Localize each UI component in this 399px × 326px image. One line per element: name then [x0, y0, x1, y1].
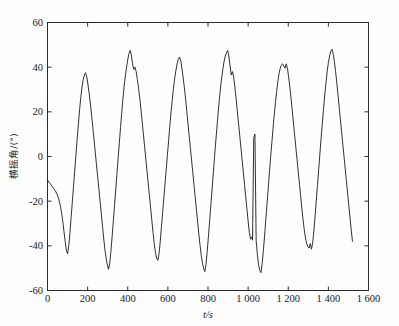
- x-tick-label: 600: [160, 293, 176, 304]
- x-tick-label: 1 400: [317, 293, 341, 304]
- x-tick-labels: 02004006008001 0001 2001 4001 600: [45, 293, 380, 304]
- y-tick-label: 20: [33, 106, 44, 117]
- x-tick-label: 1 600: [357, 293, 381, 304]
- data-series-group: [48, 49, 353, 272]
- x-tick-label: 400: [120, 293, 136, 304]
- y-tick-labels: -60-40-200204060: [29, 17, 43, 296]
- x-tick-label: 1 200: [276, 293, 300, 304]
- data-curve: [48, 49, 353, 272]
- x-tick-label: 1 000: [236, 293, 260, 304]
- figure-canvas: 02004006008001 0001 2001 4001 600 -60-40…: [0, 0, 399, 326]
- y-tick-label: -40: [29, 240, 43, 251]
- y-tick-label: 0: [38, 151, 43, 162]
- x-axis-title: t/s: [203, 309, 213, 320]
- x-tick-label: 0: [45, 293, 50, 304]
- y-tick-label: -20: [29, 196, 43, 207]
- y-tick-label: -60: [29, 285, 43, 296]
- y-axis-title: 横摇角/(°): [8, 133, 19, 178]
- y-tick-label: 40: [33, 62, 44, 73]
- y-tick-label: 60: [33, 17, 44, 28]
- line-chart: 02004006008001 0001 2001 4001 600 -60-40…: [0, 0, 399, 326]
- x-tick-label: 200: [80, 293, 96, 304]
- x-tick-label: 800: [200, 293, 216, 304]
